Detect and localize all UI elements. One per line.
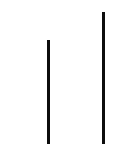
plot-area — [0, 0, 129, 147]
bar-left[interactable] — [47, 40, 50, 144]
chart-canvas — [0, 0, 129, 147]
bar-right[interactable] — [102, 12, 105, 144]
